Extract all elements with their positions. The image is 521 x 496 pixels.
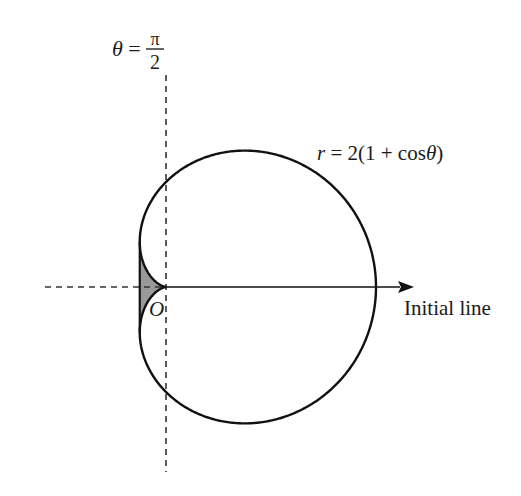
initial-line-label: Initial line — [404, 296, 491, 320]
arrow-head-icon — [398, 281, 414, 293]
cardioid-diagram: θ = π 2 r = 2(1 + cosθ) Initial line O — [0, 0, 521, 496]
curve-equation-label: r = 2(1 + cosθ) — [317, 141, 443, 165]
pole-label: O — [149, 297, 164, 321]
half-line-denominator: 2 — [150, 51, 160, 73]
half-line-numerator: π — [150, 29, 159, 49]
half-line-label: θ = — [112, 36, 141, 61]
